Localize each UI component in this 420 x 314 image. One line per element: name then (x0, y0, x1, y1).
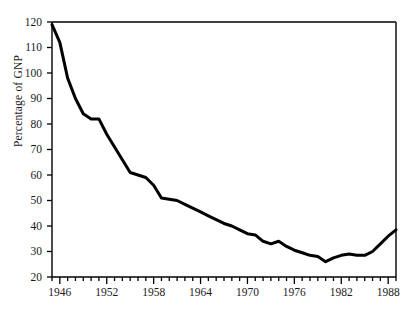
y-tick-label: 80 (16, 118, 42, 130)
x-tick-label: 1982 (321, 286, 361, 298)
y-tick-marks (47, 22, 52, 277)
y-tick-label: 100 (16, 67, 42, 79)
y-tick-label: 90 (16, 92, 42, 104)
chart-figure: Percentage of GNP 2030405060708090100110… (0, 0, 420, 314)
y-tick-label: 70 (16, 143, 42, 155)
y-tick-label: 110 (16, 41, 42, 53)
y-tick-label: 50 (16, 194, 42, 206)
y-tick-label: 40 (16, 220, 42, 232)
x-tick-label: 1988 (368, 286, 408, 298)
y-tick-label: 20 (16, 271, 42, 283)
plot-svg (0, 0, 420, 314)
axis-frame (52, 22, 396, 277)
y-tick-label: 120 (16, 16, 42, 28)
y-tick-label: 60 (16, 169, 42, 181)
y-tick-label: 30 (16, 245, 42, 257)
x-tick-label: 1964 (181, 286, 221, 298)
x-tick-label: 1970 (227, 286, 267, 298)
x-tick-label: 1958 (134, 286, 174, 298)
data-series-line (52, 25, 396, 262)
x-tick-label: 1952 (87, 286, 127, 298)
x-tick-label: 1976 (274, 286, 314, 298)
x-tick-label: 1946 (40, 286, 80, 298)
x-tick-marks (52, 277, 396, 284)
